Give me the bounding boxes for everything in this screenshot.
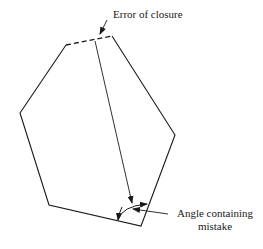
bisector-line: [95, 41, 132, 203]
angle-label-leader: [133, 209, 168, 214]
angle-arc: [118, 204, 147, 220]
traverse-sides: [20, 36, 175, 226]
error-of-closure-label: Error of closure: [113, 8, 183, 20]
angle-mistake-label-line1: Angle containing: [172, 207, 258, 219]
closure-gap-dashed: [66, 36, 112, 45]
error-of-closure-leader: [100, 20, 107, 34]
angle-mistake-label-line2: mistake: [172, 220, 258, 232]
